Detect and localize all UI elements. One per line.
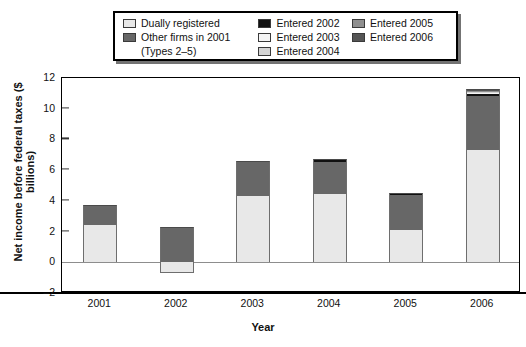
bar-segment [83, 205, 117, 225]
legend-swatch-entered-2006 [352, 33, 365, 42]
y-axis-tick-label: 8 [31, 132, 55, 144]
legend-dually-registered: Dually registered [123, 17, 258, 30]
bar-2006[interactable] [466, 89, 500, 262]
bar-2002[interactable] [160, 227, 194, 262]
x-axis-tick-label: 2004 [299, 297, 359, 309]
legend-subtext-types: (Types 2–5) [123, 45, 258, 58]
legend-entered-2003: Entered 2003 [258, 31, 352, 44]
y-axis-tick-mark [62, 107, 69, 108]
legend-swatch-other-firms-2001 [123, 33, 136, 42]
y-axis-tick-label: 6 [31, 163, 55, 175]
bar-segment [160, 227, 194, 262]
bar-segment [389, 230, 423, 262]
legend-entered-2006: Entered 2006 [352, 31, 450, 44]
y-axis-tick-label: 12 [31, 71, 55, 83]
bar-segment [236, 161, 270, 196]
y-axis-tick-label: 10 [31, 102, 55, 114]
y-axis-tick-mark [62, 199, 69, 200]
y-axis-tick-label: –2 [31, 286, 55, 298]
x-axis-tick-label: 2003 [222, 297, 282, 309]
y-axis-tick-label: 4 [31, 194, 55, 206]
bar-segment [160, 262, 194, 273]
x-axis-tick-label: 2001 [69, 297, 129, 309]
x-axis-label: Year [0, 321, 526, 333]
bar-segment [83, 225, 117, 262]
bar-segment [466, 150, 500, 262]
legend-column-3: Entered 2005 Entered 2006 [352, 17, 450, 55]
legend-entered-2004: Entered 2004 [258, 45, 352, 58]
bar-segment [466, 96, 500, 150]
x-axis-tick-label: 2005 [375, 297, 435, 309]
legend-column-1: Dually registered Other firms in 2001 (T… [123, 17, 258, 55]
bar-segment [236, 196, 270, 262]
legend-label: Entered 2002 [276, 17, 339, 30]
legend-label: Dually registered [141, 17, 220, 30]
bar-2003[interactable] [236, 161, 270, 262]
legend-swatch-entered-2003 [258, 33, 271, 42]
bar-segment [313, 194, 347, 262]
bar-negative-2002[interactable] [160, 262, 194, 273]
x-axis-rule [0, 292, 526, 294]
bar-2001[interactable] [83, 205, 117, 262]
x-axis-tick-label: 2002 [146, 297, 206, 309]
legend-label: Entered 2005 [370, 17, 433, 30]
bar-2004[interactable] [313, 159, 347, 262]
y-axis-tick-mark [62, 138, 69, 139]
y-axis-tick-label: 2 [31, 225, 55, 237]
legend-label: Entered 2006 [370, 31, 433, 44]
legend-entered-2005: Entered 2005 [352, 17, 450, 30]
bar-segment [389, 195, 423, 230]
legend-swatch-entered-2004 [258, 47, 271, 56]
legend-entered-2002: Entered 2002 [258, 17, 352, 30]
y-axis-tick-mark [62, 230, 69, 231]
legend-swatch-dually-registered [123, 19, 136, 28]
zero-baseline [62, 262, 519, 264]
y-axis-tick-label: 0 [31, 255, 55, 267]
legend-swatch-entered-2002 [258, 19, 271, 28]
bar-2005[interactable] [389, 193, 423, 262]
legend-label: Entered 2003 [276, 31, 339, 44]
legend-swatch-entered-2005 [352, 19, 365, 28]
bar-segment [313, 162, 347, 193]
plot-inner [62, 78, 519, 291]
y-axis-tick-mark [62, 169, 69, 170]
plot-area [61, 77, 520, 292]
legend-column-2: Entered 2002 Entered 2003 Entered 2004 [258, 17, 352, 55]
chart-legend: Dually registered Other firms in 2001 (T… [113, 11, 458, 61]
legend-other-firms-2001: Other firms in 2001 [123, 31, 258, 44]
x-axis-tick-label: 2006 [452, 297, 512, 309]
legend-label: Entered 2004 [276, 45, 339, 58]
legend-label: Other firms in 2001 [141, 31, 230, 44]
